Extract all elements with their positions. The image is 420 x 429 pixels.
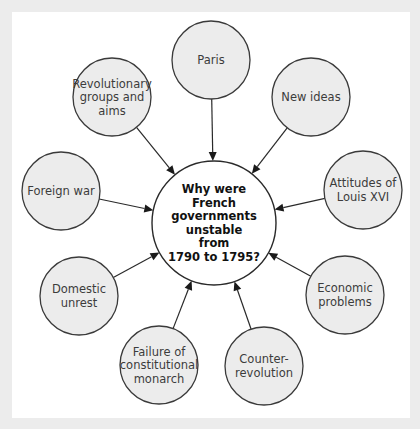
central-question-text: governments bbox=[171, 209, 257, 223]
factor-label: Counter- bbox=[239, 352, 288, 366]
factor-label: New ideas bbox=[281, 90, 340, 104]
factor-label: constitutional bbox=[120, 358, 198, 372]
arrow-line bbox=[212, 99, 213, 152]
arrow-line bbox=[113, 257, 151, 278]
central-question-text: French bbox=[192, 196, 236, 210]
central-question-node: Why wereFrenchgovernmentsunstablefrom179… bbox=[152, 161, 276, 285]
factor-node-failure-constitutional-monarch: Failure ofconstitutionalmonarch bbox=[120, 326, 198, 404]
arrow-line bbox=[257, 128, 287, 167]
factor-label: unrest bbox=[61, 296, 98, 310]
factor-label: aims bbox=[98, 104, 125, 118]
arrowhead-icon bbox=[252, 164, 261, 174]
spider-diagram: ParisNew ideasAttitudes ofLouis XVIEcono… bbox=[0, 0, 420, 429]
arrow-counter-revolution bbox=[234, 282, 251, 330]
arrow-line bbox=[237, 290, 251, 329]
central-question-text: Why were bbox=[182, 182, 246, 196]
arrow-line bbox=[137, 127, 170, 168]
factor-label: Foreign war bbox=[27, 184, 95, 198]
arrow-line bbox=[99, 199, 144, 208]
arrow-line bbox=[173, 289, 188, 328]
factor-node-economic-problems: Economicproblems bbox=[306, 256, 384, 334]
arrow-paris bbox=[209, 99, 217, 161]
arrowhead-icon bbox=[209, 152, 217, 161]
factor-node-revolutionary-groups: Revolutionarygroups andaims bbox=[72, 58, 152, 136]
factor-node-domestic-unrest: Domesticunrest bbox=[40, 257, 118, 335]
arrow-line bbox=[276, 257, 311, 276]
factor-node-counter-revolution: Counter-revolution bbox=[225, 327, 303, 405]
factor-node-paris: Paris bbox=[172, 21, 250, 99]
factor-node-new-ideas: New ideas bbox=[272, 58, 350, 136]
arrowhead-icon bbox=[185, 281, 192, 291]
factor-label: problems bbox=[318, 295, 372, 309]
factor-label: Louis XVI bbox=[337, 190, 390, 204]
arrow-domestic-unrest bbox=[113, 252, 159, 277]
factor-label: Failure of bbox=[133, 345, 187, 359]
factor-label: revolution bbox=[235, 366, 293, 380]
arrowhead-icon bbox=[166, 165, 175, 175]
factor-label: Economic bbox=[317, 281, 373, 295]
factor-label: Paris bbox=[197, 53, 224, 67]
arrowhead-icon bbox=[275, 204, 285, 212]
central-question-text: unstable bbox=[186, 223, 243, 237]
arrowhead-icon bbox=[234, 282, 242, 292]
factor-label: Domestic bbox=[52, 282, 106, 296]
central-question-text: from bbox=[199, 236, 230, 250]
arrow-attitudes-louis-xvi bbox=[275, 198, 325, 211]
arrowhead-icon bbox=[144, 205, 154, 213]
arrow-failure-constitutional-monarch bbox=[173, 281, 192, 329]
factor-label: Revolutionary bbox=[72, 77, 152, 91]
arrow-economic-problems bbox=[268, 253, 310, 276]
central-question-text: 1790 to 1795? bbox=[168, 250, 260, 264]
arrow-revolutionary-groups bbox=[137, 127, 175, 174]
factor-node-attitudes-louis-xvi: Attitudes ofLouis XVI bbox=[324, 151, 402, 229]
factor-label: Attitudes of bbox=[330, 176, 398, 190]
arrow-line bbox=[283, 198, 325, 207]
arrow-foreign-war bbox=[99, 199, 153, 212]
arrow-new-ideas bbox=[252, 128, 287, 174]
factor-node-foreign-war: Foreign war bbox=[22, 152, 100, 230]
factor-label: groups and bbox=[80, 90, 145, 104]
factor-label: monarch bbox=[134, 372, 185, 386]
